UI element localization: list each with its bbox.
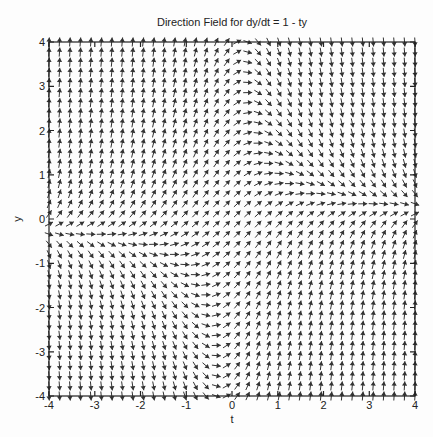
field-arrow-heads [46, 38, 419, 401]
x-tick-label: -2 [136, 399, 146, 411]
y-tick-label: 2 [39, 125, 45, 137]
y-tick-label: 4 [39, 36, 45, 48]
x-tick-label: 1 [275, 399, 281, 411]
y-tick-label: 0 [39, 213, 45, 225]
arrow-field [45, 38, 419, 401]
x-tick-label: 2 [320, 399, 326, 411]
x-axis-label: t [49, 413, 415, 425]
x-tick-label: 0 [229, 399, 235, 411]
y-tick-label: 1 [39, 169, 45, 181]
axis-ticks [49, 42, 415, 396]
y-tick-label: 3 [39, 80, 45, 92]
axes-box [49, 42, 415, 396]
x-tick-label: -1 [181, 399, 191, 411]
x-tick-label: -3 [90, 399, 100, 411]
direction-field-plot [0, 0, 433, 437]
y-tick-label: -3 [35, 346, 45, 358]
y-tick-label: -2 [35, 302, 45, 314]
x-tick-label: 4 [412, 399, 418, 411]
plot-box [49, 42, 415, 396]
direction-field-figure: Direction Field for dy/dt = 1 - ty t y -… [0, 0, 433, 437]
y-tick-label: -1 [35, 257, 45, 269]
y-tick-label: -4 [35, 390, 45, 402]
y-axis-label: y [11, 212, 23, 226]
x-tick-label: -4 [44, 399, 54, 411]
x-tick-label: 3 [366, 399, 372, 411]
